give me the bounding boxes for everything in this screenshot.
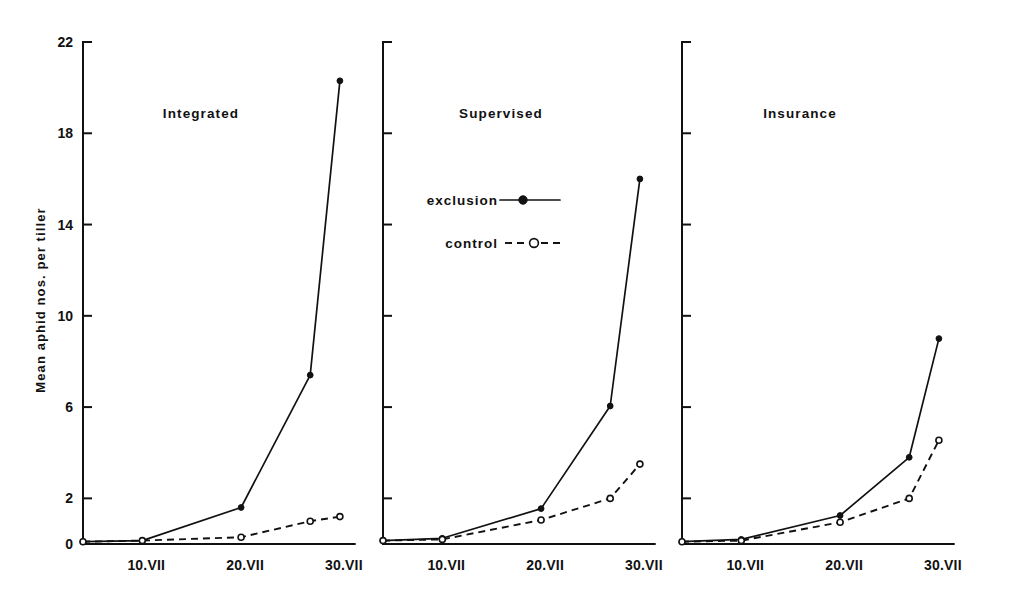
legend-marker-exclusion: [519, 196, 527, 204]
y-tick-label-2: 2: [65, 490, 73, 506]
x-tick-label-3: 30.VII: [924, 557, 962, 573]
x-tick-label-1: 10.VII: [726, 557, 764, 573]
panel-title-integrated: Integrated: [163, 106, 239, 121]
y-tick-label-22: 22: [57, 34, 73, 50]
data-point-control-2[interactable]: [238, 534, 244, 540]
data-point-control-2[interactable]: [538, 517, 544, 523]
data-point-control-0[interactable]: [380, 538, 386, 544]
data-point-exclusion-3[interactable]: [307, 372, 313, 378]
series-line-control: [83, 517, 340, 542]
panel-3: 10.VII20.VII30.VIIInsurance: [679, 42, 962, 573]
series-line-control: [383, 464, 640, 540]
legend: exclusioncontrol: [427, 193, 562, 251]
data-point-exclusion-4[interactable]: [337, 78, 343, 84]
data-point-exclusion-2[interactable]: [538, 506, 544, 512]
figure-container: 0261014182210.VII20.VII30.VIIIntegrated1…: [0, 0, 1012, 594]
panel-title-supervised: Supervised: [459, 106, 543, 121]
data-point-control-2[interactable]: [837, 519, 843, 525]
data-point-control-3[interactable]: [607, 495, 613, 501]
x-tick-label-1: 10.VII: [127, 557, 165, 573]
panel-title-insurance: Insurance: [763, 106, 837, 121]
data-point-control-3[interactable]: [906, 495, 912, 501]
data-point-control-1[interactable]: [139, 538, 145, 544]
y-tick-label-14: 14: [57, 217, 73, 233]
x-tick-label-2: 20.VII: [226, 557, 264, 573]
data-point-control-4[interactable]: [337, 514, 343, 520]
series-line-exclusion: [383, 179, 640, 541]
data-point-control-1[interactable]: [439, 536, 445, 542]
series-line-exclusion: [682, 339, 939, 542]
data-point-control-0[interactable]: [80, 539, 86, 545]
data-point-exclusion-2[interactable]: [238, 505, 244, 511]
legend-label-exclusion: exclusion: [427, 193, 498, 208]
data-point-control-1[interactable]: [738, 538, 744, 544]
x-tick-label-3: 30.VII: [625, 557, 663, 573]
legend-marker-control: [530, 239, 539, 248]
data-point-control-4[interactable]: [637, 461, 643, 467]
y-tick-label-18: 18: [57, 125, 73, 141]
multi-panel-line-chart: 0261014182210.VII20.VII30.VIIIntegrated1…: [0, 0, 1012, 594]
panel-2: 10.VII20.VII30.VIISupervised: [380, 42, 663, 573]
y-tick-label-10: 10: [57, 308, 73, 324]
data-point-control-0[interactable]: [679, 539, 685, 545]
legend-label-control: control: [445, 236, 498, 251]
panel-1: 0261014182210.VII20.VII30.VIIIntegrated: [57, 34, 362, 573]
data-point-control-3[interactable]: [307, 518, 313, 524]
data-point-exclusion-3[interactable]: [607, 403, 613, 409]
data-point-exclusion-4[interactable]: [936, 336, 942, 342]
data-point-control-4[interactable]: [936, 437, 942, 443]
series-line-exclusion: [83, 81, 340, 542]
data-point-exclusion-2[interactable]: [837, 513, 843, 519]
data-point-exclusion-3[interactable]: [906, 454, 912, 460]
y-tick-label-0: 0: [65, 536, 73, 552]
x-tick-label-1: 10.VII: [427, 557, 465, 573]
x-tick-label-2: 20.VII: [825, 557, 863, 573]
series-line-control: [682, 440, 939, 542]
data-point-exclusion-4[interactable]: [637, 176, 643, 182]
y-axis-title: Mean aphid nos. per tiller: [33, 207, 48, 392]
x-tick-label-3: 30.VII: [325, 557, 363, 573]
y-tick-label-6: 6: [65, 399, 73, 415]
x-tick-label-2: 20.VII: [526, 557, 564, 573]
